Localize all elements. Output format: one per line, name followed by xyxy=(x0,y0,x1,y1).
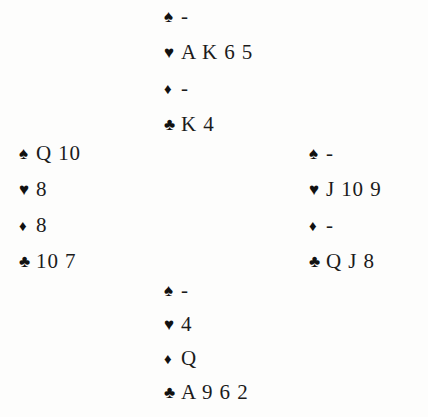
south-diamond-cards: Q xyxy=(181,348,197,369)
heart-icon: ♥ xyxy=(19,181,36,198)
west-diamond-cards: 8 xyxy=(36,215,47,236)
hand-south: ♠ - ♥ 4 ♦ Q ♣ A 9 6 2 xyxy=(164,280,249,416)
west-diamond-row: ♦ 8 xyxy=(19,215,81,251)
west-spade-cards: Q 10 xyxy=(36,143,81,164)
east-diamond-cards: - xyxy=(326,215,333,236)
south-club-row: ♣ A 9 6 2 xyxy=(164,382,249,416)
spade-icon: ♠ xyxy=(164,8,181,25)
spade-icon: ♠ xyxy=(164,282,181,299)
bridge-deal-diagram: ♠ - ♥ A K 6 5 ♦ - ♣ K 4 ♠ Q 10 ♥ 8 ♦ 8 xyxy=(0,0,428,417)
south-spade-cards: - xyxy=(181,280,188,301)
spade-icon: ♠ xyxy=(309,145,326,162)
south-heart-row: ♥ 4 xyxy=(164,314,249,348)
north-heart-cards: A K 6 5 xyxy=(181,42,253,63)
south-club-cards: A 9 6 2 xyxy=(181,382,249,403)
north-club-cards: K 4 xyxy=(181,114,215,135)
diamond-icon: ♦ xyxy=(164,82,181,97)
south-heart-cards: 4 xyxy=(181,314,192,335)
hand-east: ♠ - ♥ J 10 9 ♦ - ♣ Q J 8 xyxy=(309,143,382,287)
north-diamond-cards: - xyxy=(181,78,188,99)
north-club-row: ♣ K 4 xyxy=(164,114,253,150)
south-diamond-row: ♦ Q xyxy=(164,348,249,382)
west-heart-cards: 8 xyxy=(36,179,47,200)
north-diamond-row: ♦ - xyxy=(164,78,253,114)
east-spade-cards: - xyxy=(326,143,333,164)
spade-icon: ♠ xyxy=(19,145,36,162)
club-icon: ♣ xyxy=(164,116,181,133)
heart-icon: ♥ xyxy=(164,316,181,333)
north-spade-cards: - xyxy=(181,6,188,27)
club-icon: ♣ xyxy=(19,253,36,270)
east-heart-cards: J 10 9 xyxy=(326,179,382,200)
east-club-row: ♣ Q J 8 xyxy=(309,251,382,287)
west-spade-row: ♠ Q 10 xyxy=(19,143,81,179)
club-icon: ♣ xyxy=(309,253,326,270)
east-heart-row: ♥ J 10 9 xyxy=(309,179,382,215)
east-diamond-row: ♦ - xyxy=(309,215,382,251)
west-heart-row: ♥ 8 xyxy=(19,179,81,215)
diamond-icon: ♦ xyxy=(309,219,326,234)
diamond-icon: ♦ xyxy=(19,219,36,234)
north-heart-row: ♥ A K 6 5 xyxy=(164,42,253,78)
south-spade-row: ♠ - xyxy=(164,280,249,314)
north-spade-row: ♠ - xyxy=(164,6,253,42)
club-icon: ♣ xyxy=(164,384,181,401)
hand-west: ♠ Q 10 ♥ 8 ♦ 8 ♣ 10 7 xyxy=(19,143,81,287)
heart-icon: ♥ xyxy=(164,44,181,61)
diamond-icon: ♦ xyxy=(164,352,181,367)
west-club-cards: 10 7 xyxy=(36,251,76,272)
east-club-cards: Q J 8 xyxy=(326,251,375,272)
heart-icon: ♥ xyxy=(309,181,326,198)
west-club-row: ♣ 10 7 xyxy=(19,251,81,287)
east-spade-row: ♠ - xyxy=(309,143,382,179)
hand-north: ♠ - ♥ A K 6 5 ♦ - ♣ K 4 xyxy=(164,6,253,150)
